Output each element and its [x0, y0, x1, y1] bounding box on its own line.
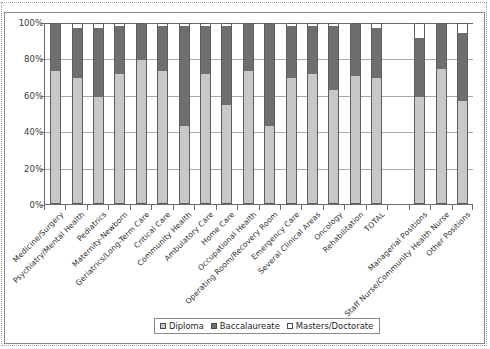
stacked-bar[interactable] [436, 23, 447, 204]
bar-group[interactable] [195, 23, 216, 204]
bar-segment-diploma [308, 74, 317, 203]
bar-segment-baccalaureate [180, 26, 189, 126]
bar-group[interactable] [152, 23, 173, 204]
stacked-bar[interactable] [264, 23, 275, 204]
bar-segment-baccalaureate [94, 28, 103, 98]
x-axis-labels: Medicine/SurgeryPsychiatry/Mental Health… [44, 210, 473, 310]
bar-segment-baccalaureate [115, 26, 124, 74]
stacked-bar[interactable] [328, 23, 339, 204]
bar-group[interactable] [66, 23, 87, 204]
bar-group[interactable] [45, 23, 66, 204]
legend-item[interactable]: Diploma [160, 321, 204, 331]
bar-group-gap [388, 23, 409, 204]
bar-segment-diploma [415, 97, 424, 203]
chart-legend: DiplomaBaccalaureateMasters/Doctorate [154, 318, 380, 334]
stacked-bar[interactable] [93, 23, 104, 204]
legend-swatch-icon [211, 323, 217, 329]
bar-segment-diploma [372, 78, 381, 203]
bar-segment-diploma [222, 105, 231, 203]
legend-label: Baccalaureate [220, 321, 280, 331]
stacked-bar[interactable] [243, 23, 254, 204]
stacked-bar[interactable] [350, 23, 361, 204]
stacked-bar[interactable] [371, 23, 382, 204]
y-tick-label: 100% [19, 18, 43, 28]
bar-segment-baccalaureate [265, 24, 274, 126]
legend-swatch-icon [160, 323, 166, 329]
stacked-bar[interactable] [414, 23, 425, 204]
bar-segment-baccalaureate [73, 28, 82, 78]
bar-segment-baccalaureate [437, 24, 446, 69]
bar-segment-baccalaureate [201, 26, 210, 74]
bar-segment-diploma [458, 101, 467, 203]
plot-area [44, 23, 473, 205]
bar-group[interactable] [88, 23, 109, 204]
bar-group[interactable] [430, 23, 451, 204]
chart-figure: 0%20%40%60%80%100% Medicine/SurgeryPsych… [0, 0, 490, 349]
x-axis-category-label: Staff Nurse/Community Health Nurse [343, 210, 451, 318]
bar-segment-baccalaureate [244, 24, 253, 71]
bar-segment-baccalaureate [372, 28, 381, 78]
bar-group[interactable] [259, 23, 280, 204]
bar-segment-baccalaureate [308, 26, 317, 74]
bar-segment-diploma [351, 76, 360, 203]
bar-segment-baccalaureate [222, 26, 231, 105]
bar-segment-diploma [437, 69, 446, 203]
bar-segment-baccalaureate [329, 26, 338, 90]
bar-segment-diploma [158, 71, 167, 203]
bar-group[interactable] [323, 23, 344, 204]
bar-group[interactable] [173, 23, 194, 204]
bar-segment-diploma [137, 60, 146, 203]
bar-segment-diploma [265, 126, 274, 203]
legend-label: Diploma [169, 321, 204, 331]
x-axis-category-label: TOTAL [363, 210, 387, 234]
bar-segment-baccalaureate [158, 26, 167, 71]
stacked-bar[interactable] [136, 23, 147, 204]
bar-group[interactable] [409, 23, 430, 204]
bar-group[interactable] [302, 23, 323, 204]
stacked-bar[interactable] [179, 23, 190, 204]
bar-group[interactable] [131, 23, 152, 204]
bar-segment-diploma [94, 97, 103, 203]
bar-group[interactable] [280, 23, 301, 204]
bar-segment-masters-doctorate [458, 24, 467, 33]
stacked-bar[interactable] [200, 23, 211, 204]
stacked-bar[interactable] [286, 23, 297, 204]
bar-segment-baccalaureate [351, 24, 360, 76]
stacked-bar[interactable] [72, 23, 83, 204]
bar-group[interactable] [366, 23, 387, 204]
stacked-bar[interactable] [221, 23, 232, 204]
bar-segment-diploma [115, 74, 124, 203]
stacked-bar[interactable] [307, 23, 318, 204]
stacked-bar[interactable] [457, 23, 468, 204]
bar-group[interactable] [452, 23, 473, 204]
bar-segment-baccalaureate [137, 24, 146, 60]
stacked-bar[interactable] [50, 23, 61, 204]
stacked-bar[interactable] [157, 23, 168, 204]
stacked-bar[interactable] [114, 23, 125, 204]
legend-item[interactable]: Baccalaureate [211, 321, 280, 331]
bar-segment-diploma [51, 71, 60, 203]
bar-segment-diploma [329, 90, 338, 203]
bar-group[interactable] [238, 23, 259, 204]
bar-segment-diploma [244, 71, 253, 203]
bar-group[interactable] [345, 23, 366, 204]
bar-segment-baccalaureate [287, 26, 296, 78]
bar-segment-baccalaureate [51, 24, 60, 71]
bar-segment-baccalaureate [458, 33, 467, 101]
legend-swatch-icon [287, 323, 293, 329]
bar-segment-baccalaureate [415, 38, 424, 97]
bar-segment-diploma [180, 126, 189, 203]
bar-series-group [45, 23, 473, 204]
legend-label: Masters/Doctorate [296, 321, 373, 331]
bar-segment-diploma [73, 78, 82, 203]
bar-group[interactable] [109, 23, 130, 204]
bar-segment-diploma [287, 78, 296, 203]
bar-group[interactable] [216, 23, 237, 204]
bar-segment-diploma [201, 74, 210, 203]
legend-item[interactable]: Masters/Doctorate [287, 321, 373, 331]
bar-segment-masters-doctorate [415, 24, 424, 38]
